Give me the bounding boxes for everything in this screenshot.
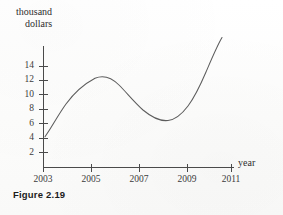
- x-tick-label-2011: 2011: [216, 175, 246, 185]
- y-axis-label-line2: dollars: [16, 18, 52, 30]
- x-tick-label-2009: 2009: [172, 175, 202, 185]
- x-tick-label-2005: 2005: [76, 175, 106, 185]
- x-tick-label-2007: 2007: [124, 175, 154, 185]
- data-curve: [45, 38, 222, 137]
- x-tick-label-2003: 2003: [28, 175, 58, 185]
- y-tick-label-14: 14: [18, 61, 34, 71]
- y-tick-label-4: 4: [18, 133, 34, 143]
- y-axis-label: thousand dollars: [16, 6, 52, 30]
- y-tick-label-10: 10: [18, 90, 34, 100]
- x-axis-label: year: [238, 157, 255, 168]
- y-tick-label-12: 12: [18, 75, 34, 85]
- y-axis-label-line1: thousand: [16, 6, 52, 17]
- y-tick-label-2: 2: [18, 148, 34, 158]
- y-tick-label-8: 8: [18, 104, 34, 114]
- y-tick-label-6: 6: [18, 119, 34, 129]
- figure-caption: Figure 2.19: [13, 189, 65, 200]
- chart-figure: thousand dollars year 14 12 10 8 6 4 2 2…: [0, 0, 283, 215]
- figure-page: thousand dollars year 14 12 10 8 6 4 2 2…: [0, 0, 283, 215]
